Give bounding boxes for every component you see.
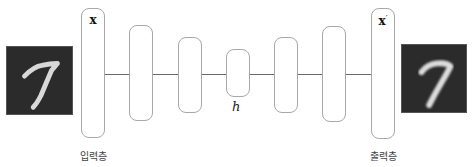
prime-mark: ′ <box>386 13 388 22</box>
code-variable-h: h <box>232 99 240 114</box>
output-variable-x-prime: x′ <box>372 13 394 28</box>
output-digit-image <box>401 44 467 113</box>
input-digit-image <box>6 46 73 115</box>
input-layer: x <box>81 8 105 138</box>
output-layer-caption: 출력층 <box>358 148 408 163</box>
decoder-layer-2 <box>322 26 346 122</box>
input-layer-caption: 입력층 <box>68 148 118 163</box>
input-variable-x: x <box>82 13 104 27</box>
output-symbol: x <box>379 14 386 28</box>
decoder-layer-1 <box>274 37 298 113</box>
digit-seven-icon <box>7 47 72 114</box>
encoder-layer-2 <box>178 37 202 113</box>
output-layer: x′ <box>371 8 395 139</box>
encoder-layer-1 <box>129 25 153 121</box>
code-layer <box>226 49 250 97</box>
digit-seven-blurry-icon <box>402 45 466 112</box>
